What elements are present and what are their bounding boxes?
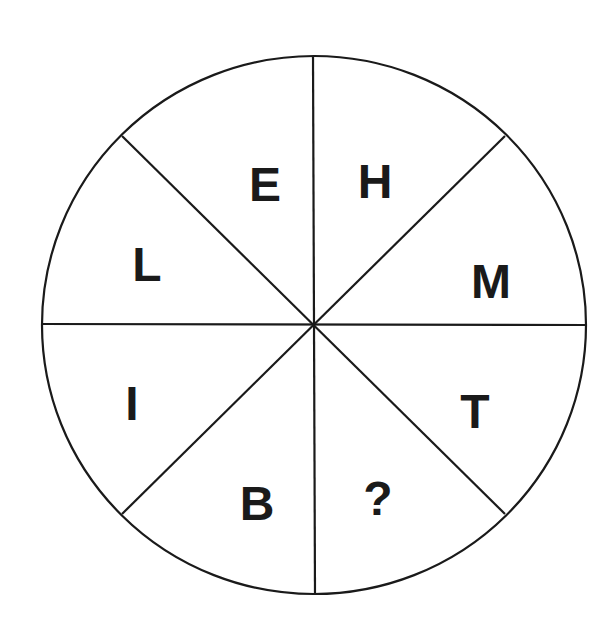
segment-letter-i: I — [125, 377, 138, 430]
segment-letter-l: L — [132, 238, 161, 291]
segment-letter-t: T — [460, 385, 489, 438]
segment-letter-b: B — [240, 477, 275, 530]
letter-wheel: E H M T ? B I L — [0, 0, 610, 633]
segment-question-mark: ? — [363, 472, 392, 525]
segment-letter-h: H — [358, 155, 393, 208]
segment-letter-m: M — [471, 255, 511, 308]
segment-letter-e: E — [249, 158, 281, 211]
